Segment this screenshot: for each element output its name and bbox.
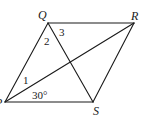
angle-label-1: 1 [23,74,29,86]
angle-label-30-degrees: 30° [32,89,47,101]
vertex-label-p: P [0,96,3,110]
rhombus-diagram: P Q R S 1 2 3 30° [0,0,147,119]
side-rs [93,23,134,102]
angle-label-2: 2 [44,35,50,47]
vertex-label-q: Q [38,8,47,22]
diagonal-qs [48,23,93,102]
diagonal-pr [5,23,134,102]
vertex-label-s: S [93,104,99,118]
angle-label-3: 3 [59,26,65,38]
vertex-label-r: R [130,9,139,23]
